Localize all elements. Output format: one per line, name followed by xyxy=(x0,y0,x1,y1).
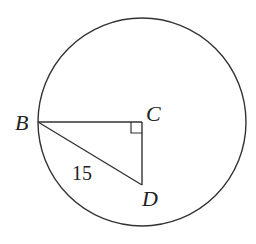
label-c: C xyxy=(146,101,161,126)
label-bd-length: 15 xyxy=(72,162,92,184)
geometry-diagram: B C D 15 xyxy=(0,0,256,244)
label-b: B xyxy=(15,110,28,135)
right-angle-marker xyxy=(131,122,142,133)
label-d: D xyxy=(141,186,158,211)
